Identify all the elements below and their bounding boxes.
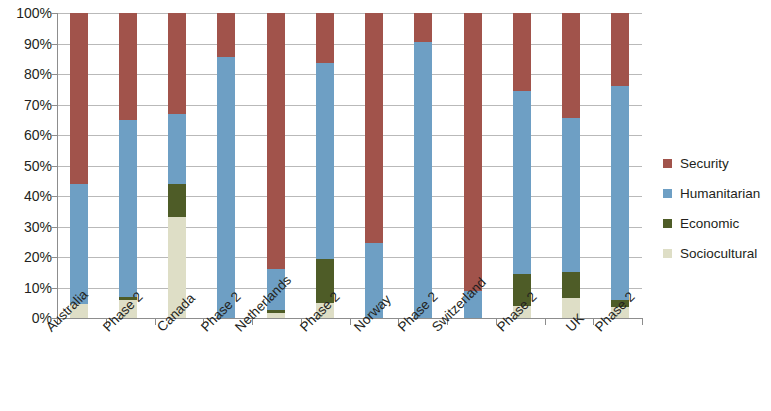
y-axis-tick-mark [50, 257, 57, 258]
legend-item-security[interactable]: Security [663, 148, 771, 178]
bar-canada-2 [168, 13, 186, 318]
gridline [57, 196, 642, 197]
legend-item-sociocultural[interactable]: Sociocultural [663, 238, 771, 268]
y-axis-tick-mark [50, 288, 57, 289]
gridline [57, 166, 642, 167]
gridline [57, 257, 642, 258]
gridline [57, 227, 642, 228]
plot-area [57, 13, 642, 318]
bar-segment-security [119, 13, 137, 120]
legend-label: Sociocultural [680, 246, 757, 261]
y-axis-tick-mark [50, 74, 57, 75]
x-axis-tick-mark [642, 318, 643, 325]
bar-phase-2-9 [513, 13, 531, 318]
legend-swatch-icon [663, 159, 672, 168]
bar-segment-humanitarian [119, 120, 137, 297]
gridline [57, 74, 642, 75]
bar-phase-2-7 [414, 13, 432, 318]
bar-segment-security [316, 13, 334, 63]
bar-segment-security [168, 13, 186, 114]
bar-segment-humanitarian [316, 63, 334, 258]
bar-segment-security [70, 13, 88, 184]
y-axis-tick-label: 10% [4, 280, 52, 296]
gridline [57, 135, 642, 136]
bar-segment-humanitarian [414, 42, 432, 318]
bar-phase-2-11 [611, 13, 629, 318]
y-axis-tick-label: 40% [4, 188, 52, 204]
bar-uk-10 [562, 13, 580, 318]
bar-segment-security [267, 13, 285, 269]
bar-segment-security [513, 13, 531, 91]
bar-switzerland-8 [464, 13, 482, 318]
bar-segment-security [562, 13, 580, 118]
legend-item-economic[interactable]: Economic [663, 208, 771, 238]
bar-segment-humanitarian [217, 57, 235, 318]
gridline [57, 105, 642, 106]
bar-segment-security [611, 13, 629, 86]
bar-segment-humanitarian [562, 118, 580, 272]
bar-phase-2-5 [316, 13, 334, 318]
y-axis-tick-label: 90% [4, 36, 52, 52]
legend-swatch-icon [663, 249, 672, 258]
y-axis-tick-label: 80% [4, 66, 52, 82]
y-axis: 0%10%20%30%40%50%60%70%80%90%100% [0, 0, 52, 411]
legend-swatch-icon [663, 189, 672, 198]
bar-segment-humanitarian [611, 86, 629, 300]
y-axis-tick-label: 70% [4, 97, 52, 113]
y-axis-line [57, 13, 58, 319]
y-axis-tick-mark [50, 166, 57, 167]
y-axis-tick-mark [50, 196, 57, 197]
chart-legend: SecurityHumanitarianEconomicSociocultura… [663, 148, 771, 268]
bar-segment-security [414, 13, 432, 42]
y-axis-tick-label: 30% [4, 219, 52, 235]
legend-label: Humanitarian [680, 186, 760, 201]
bar-segment-security [365, 13, 383, 243]
y-axis-tick-mark [50, 135, 57, 136]
legend-label: Economic [680, 216, 739, 231]
bar-phase-2-1 [119, 13, 137, 318]
bar-segment-security [217, 13, 235, 57]
y-axis-tick-label: 20% [4, 249, 52, 265]
bar-segment-humanitarian [513, 91, 531, 274]
bar-phase-2-3 [217, 13, 235, 318]
y-axis-tick-mark [50, 13, 57, 14]
bar-segment-economic [168, 184, 186, 218]
y-axis-tick-label: 60% [4, 127, 52, 143]
y-axis-tick-label: 50% [4, 158, 52, 174]
y-axis-tick-mark [50, 227, 57, 228]
bar-segment-humanitarian [168, 114, 186, 184]
bar-segment-security [464, 13, 482, 291]
bar-norway-6 [365, 13, 383, 318]
legend-label: Security [680, 156, 729, 171]
bar-segment-economic [267, 310, 285, 313]
y-axis-tick-label: 100% [4, 5, 52, 21]
legend-item-humanitarian[interactable]: Humanitarian [663, 178, 771, 208]
x-axis-tick-mark [545, 318, 546, 325]
legend-swatch-icon [663, 219, 672, 228]
y-axis-tick-mark [50, 44, 57, 45]
bar-segment-economic [562, 272, 580, 298]
y-axis-tick-mark [50, 105, 57, 106]
stacked-bar-chart: 0%10%20%30%40%50%60%70%80%90%100% Austra… [0, 0, 771, 411]
gridline [57, 44, 642, 45]
gridline [57, 13, 642, 14]
gridline [57, 288, 642, 289]
bar-australia-0 [70, 13, 88, 318]
